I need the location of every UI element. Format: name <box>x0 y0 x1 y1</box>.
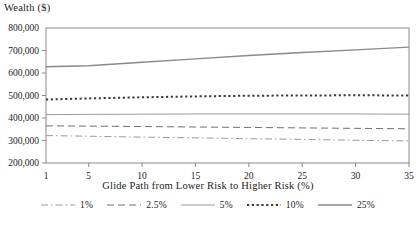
series-line-5 <box>46 114 409 115</box>
legend-label: 10% <box>286 200 304 210</box>
x-tick-label: 5 <box>86 171 91 180</box>
y-tick-label: 400,000 <box>8 113 39 123</box>
x-tick-label: 15 <box>191 171 201 180</box>
plot-area: 200,000300,000400,000500,000600,000700,0… <box>0 0 416 180</box>
x-tick-label: 10 <box>137 171 147 180</box>
legend-swatch-25 <box>318 200 352 210</box>
x-tick-label: 30 <box>351 171 361 180</box>
x-tick-label: 1 <box>44 171 49 180</box>
y-tick-label: 800,000 <box>8 23 39 33</box>
legend-item-10[interactable]: 10% <box>247 200 304 210</box>
y-tick-label: 500,000 <box>8 91 39 101</box>
series-line-1 <box>46 136 409 141</box>
y-tick-label: 300,000 <box>8 136 39 146</box>
legend-item-25[interactable]: 2.5% <box>107 200 167 210</box>
y-tick-label: 200,000 <box>8 158 39 168</box>
legend-label: 2.5% <box>146 200 167 210</box>
x-axis-title: Glide Path from Lower Risk to Higher Ris… <box>0 180 416 191</box>
x-tick-label: 20 <box>244 171 254 180</box>
legend-swatch-5 <box>181 200 215 210</box>
series-line-10 <box>46 95 409 99</box>
legend-label: 1% <box>80 200 93 210</box>
legend-item-5[interactable]: 5% <box>181 200 233 210</box>
legend-swatch-10 <box>247 200 281 210</box>
x-tick-label: 25 <box>297 171 307 180</box>
y-tick-label: 700,000 <box>8 46 39 56</box>
y-tick-label: 600,000 <box>8 68 39 78</box>
legend-label: 25% <box>357 200 375 210</box>
legend-item-25[interactable]: 25% <box>318 200 375 210</box>
series-line-25 <box>46 126 409 129</box>
chart-legend: 1%2.5%5%10%25% <box>0 200 416 210</box>
legend-swatch-25 <box>107 200 141 210</box>
plot-svg: 200,000300,000400,000500,000600,000700,0… <box>0 0 416 180</box>
series-line-25 <box>46 47 409 67</box>
legend-label: 5% <box>220 200 233 210</box>
legend-swatch-1 <box>41 200 75 210</box>
legend-item-1[interactable]: 1% <box>41 200 93 210</box>
wealth-glide-path-chart: Wealth ($) 200,000300,000400,000500,0006… <box>0 0 416 227</box>
x-tick-label: 35 <box>404 171 414 180</box>
